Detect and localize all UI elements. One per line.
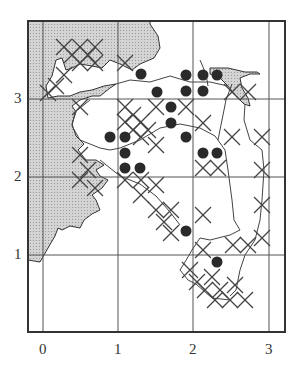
- map-canvas: [0, 0, 300, 372]
- distribution-map: 0 1 2 3 3 2 1: [0, 0, 300, 372]
- x-tick-3: 3: [265, 342, 273, 357]
- dot-icon: [120, 163, 131, 174]
- dot-icon: [135, 163, 146, 174]
- dot-icon: [152, 87, 163, 98]
- dot-icon: [120, 132, 131, 143]
- dot-icon: [120, 148, 131, 159]
- dot-icon: [136, 69, 147, 80]
- dot-markers: [105, 69, 223, 268]
- dot-icon: [181, 86, 192, 97]
- dot-icon: [212, 70, 223, 81]
- dot-icon: [198, 86, 209, 97]
- x-tick-0: 0: [39, 342, 47, 357]
- y-tick-1: 1: [14, 247, 22, 262]
- shaded-region-west: [28, 21, 160, 262]
- dot-icon: [166, 102, 177, 113]
- dot-icon: [212, 148, 223, 159]
- y-tick-2: 2: [14, 169, 22, 184]
- dot-icon: [181, 132, 192, 143]
- y-tick-3: 3: [14, 91, 22, 106]
- dot-icon: [181, 226, 192, 237]
- dot-icon: [198, 148, 209, 159]
- dot-icon: [166, 118, 177, 129]
- dot-icon: [198, 70, 209, 81]
- dot-icon: [181, 70, 192, 81]
- x-tick-1: 1: [114, 342, 122, 357]
- x-tick-2: 2: [189, 342, 197, 357]
- dot-icon: [105, 132, 116, 143]
- dot-icon: [212, 257, 223, 268]
